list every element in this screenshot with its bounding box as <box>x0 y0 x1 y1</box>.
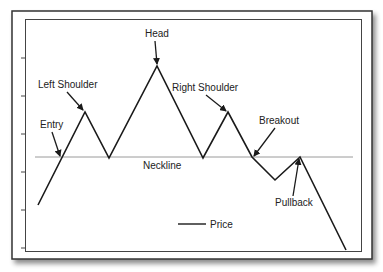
label-pullback: Pullback <box>275 197 314 208</box>
legend-label-price: Price <box>210 219 233 230</box>
plot-area <box>26 20 362 252</box>
label-right-shoulder: Right Shoulder <box>172 82 239 93</box>
label-neckline: Neckline <box>143 160 182 171</box>
label-breakout: Breakout <box>259 115 299 126</box>
head-and-shoulders-diagram: Head Left Shoulder Right Shoulder Entry … <box>0 0 383 272</box>
label-entry: Entry <box>40 119 63 130</box>
label-left-shoulder: Left Shoulder <box>38 79 98 90</box>
label-head: Head <box>145 28 169 39</box>
